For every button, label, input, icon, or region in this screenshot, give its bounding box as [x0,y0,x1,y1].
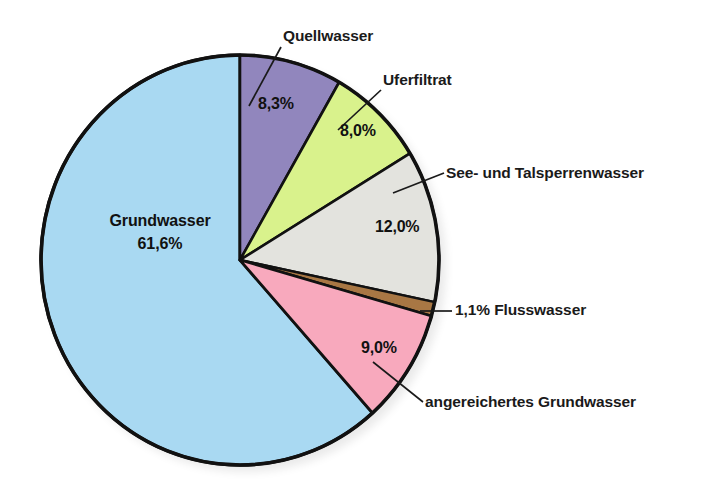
slice-value-angereichertes-grundwasser: 9,0% [361,339,397,357]
slice-label-angereichertes-grundwasser: angereichertes Grundwasser [425,392,636,411]
slice-value-uferfiltrat: 8,0% [340,122,376,140]
slice-label-grundwasser: Grundwasser [85,209,235,232]
slice-value-see-und-talsperrenwasser: 12,0% [375,218,419,236]
pie-chart: Quellwasser Uferfiltrat See- und Talsper… [0,0,705,491]
slice-label-group-grundwasser: Grundwasser 61,6% [85,209,235,255]
slice-label-uferfiltrat: Uferfiltrat [383,70,452,89]
slice-label-flusswasser: 1,1% Flusswasser [455,300,586,319]
slice-value-grundwasser: 61,6% [85,232,235,255]
slice-label-see-und-talsperrenwasser: See- und Talsperrenwasser [446,163,644,182]
slice-label-quellwasser: Quellwasser [283,26,373,45]
slice-value-quellwasser: 8,3% [258,95,294,113]
